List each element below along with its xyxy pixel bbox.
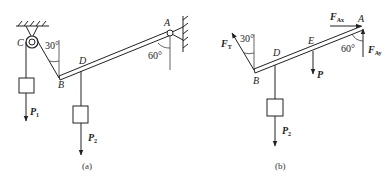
angle-arc-30 xyxy=(49,61,59,62)
label-d-fbd: D xyxy=(272,47,281,58)
label-e: E xyxy=(307,35,314,46)
angle-30: 30° xyxy=(45,40,59,51)
label-c: C xyxy=(17,37,24,48)
angle-60-b: 60° xyxy=(341,43,355,54)
pin-a xyxy=(167,30,173,36)
angle-arc-60-b xyxy=(352,34,363,41)
panel-b: FT 30° B D E P2 P FAx A FAy 60° (b) xyxy=(220,11,382,171)
label-d: D xyxy=(78,55,87,66)
label-p1: P1 xyxy=(30,106,39,118)
angle-60: 60° xyxy=(148,50,162,61)
angle-30-b: 30° xyxy=(240,33,254,44)
label-a: A xyxy=(163,17,171,28)
weight-p1 xyxy=(19,78,34,93)
label-b-fbd: B xyxy=(253,75,259,86)
caption-a: (a) xyxy=(82,161,92,171)
weight-p2 xyxy=(73,106,88,123)
weight-p2-fbd xyxy=(267,99,283,116)
label-fax: FAx xyxy=(329,11,344,23)
angle-arc-60 xyxy=(158,43,170,48)
statics-diagram: C P1 30° B D P2 xyxy=(0,0,385,183)
angle-arc-30-b xyxy=(244,53,254,54)
label-p: P xyxy=(317,69,324,80)
label-p2: P2 xyxy=(88,132,97,144)
label-fay: FAy xyxy=(367,44,382,56)
caption-b: (b) xyxy=(275,161,286,171)
label-a-fbd: A xyxy=(357,13,365,24)
pulley-c xyxy=(26,36,38,48)
label-ft: FT xyxy=(220,38,232,50)
label-b: B xyxy=(58,79,64,90)
panel-a: C P1 30° B D P2 xyxy=(16,16,188,171)
label-p2-fbd: P2 xyxy=(282,125,291,137)
